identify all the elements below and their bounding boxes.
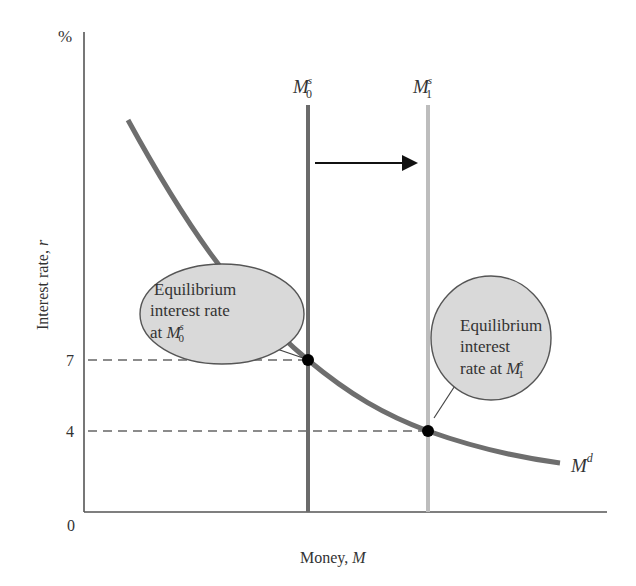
svg-text:interest rate: interest rate (150, 301, 230, 320)
supply-label-m0: Ms0 (292, 74, 312, 101)
equilibrium-point-m1 (422, 425, 434, 437)
svg-text:rate at Ms1: rate at Ms1 (460, 357, 524, 380)
money-market-chart: % 0 7 4 Money, M Interest rate, r Ms0 Ms… (0, 0, 636, 586)
y-axis-label: Interest rate, r (34, 239, 51, 330)
svg-text:Equilibrium: Equilibrium (460, 316, 542, 335)
supply-label-m1: Ms1 (412, 74, 432, 101)
y-unit-label: % (58, 27, 72, 46)
guide-lines (88, 360, 428, 431)
svg-text:at Ms0: at Ms0 (150, 321, 185, 344)
y-tick-4: 4 (66, 423, 74, 440)
callout-equilibrium-m0: Equilibrium interest rate at Ms0 (140, 264, 306, 364)
origin-label: 0 (67, 517, 75, 534)
shift-arrow-icon (315, 155, 418, 171)
svg-text:interest: interest (460, 337, 510, 356)
demand-label: Md (570, 451, 594, 476)
x-axis-label: Money, M (300, 549, 367, 567)
callout-equilibrium-m1: Equilibrium interest rate at Ms1 (431, 276, 551, 418)
svg-text:Equilibrium: Equilibrium (154, 280, 236, 299)
y-tick-7: 7 (66, 352, 74, 369)
equilibrium-point-m0 (302, 354, 314, 366)
